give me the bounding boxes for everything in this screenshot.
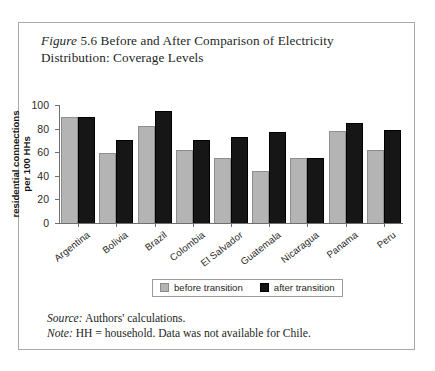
x-tick xyxy=(78,223,79,227)
bar-before xyxy=(367,150,384,223)
x-tick xyxy=(116,223,117,227)
figure-footnotes: Source: Authors' calculations. Note: HH … xyxy=(47,312,397,341)
y-tick-80: 80 xyxy=(55,129,59,130)
y-tick-100: 100 xyxy=(55,105,59,106)
figure-number-label: Figure xyxy=(41,33,77,48)
bar-after xyxy=(384,130,401,223)
x-tick xyxy=(155,223,156,227)
bar-before xyxy=(176,150,193,223)
x-tick xyxy=(384,223,385,227)
y-axis-line xyxy=(59,105,60,223)
bar-after xyxy=(269,132,286,223)
x-axis-label: Brazil xyxy=(142,229,168,253)
bar-group xyxy=(329,105,363,223)
y-tick-label-0: 0 xyxy=(43,217,49,229)
chart-plot-area: residential connections per 100 HHs 100 … xyxy=(59,105,403,223)
bar-group xyxy=(214,105,248,223)
bar-group xyxy=(99,105,133,223)
x-tick xyxy=(346,223,347,227)
x-tick xyxy=(269,223,270,227)
y-tick-20: 20 xyxy=(55,199,59,200)
x-tick xyxy=(231,223,232,227)
bar-after xyxy=(155,111,172,223)
legend-label-after: after transition xyxy=(274,282,335,293)
x-tick xyxy=(193,223,194,227)
x-axis-label: Argentina xyxy=(52,229,92,264)
bar-group xyxy=(252,105,286,223)
bar-after xyxy=(116,140,133,223)
bar-before xyxy=(214,158,231,223)
source-text: Authors' calculations. xyxy=(83,312,186,325)
legend-label-before: before transition xyxy=(174,282,243,293)
y-axis-title: residential connections per 100 HHs xyxy=(10,105,32,223)
chart-legend: before transition after transition xyxy=(152,279,343,297)
note-text: HH = household. Data was not available f… xyxy=(73,327,311,340)
x-axis-label: Nicaragua xyxy=(279,229,321,265)
bar-before xyxy=(61,117,78,223)
figure-title: Figure 5.6 Before and After Comparison o… xyxy=(41,33,386,66)
bar-after xyxy=(193,140,210,223)
y-tick-label-80: 80 xyxy=(37,123,49,135)
bar-group xyxy=(290,105,324,223)
legend-swatch-before-icon xyxy=(160,283,169,292)
x-axis-label: Panama xyxy=(324,229,359,260)
y-tick-label-20: 20 xyxy=(37,193,49,205)
legend-swatch-after-icon xyxy=(260,283,269,292)
figure-title-text: 5.6 Before and After Comparison of Elect… xyxy=(41,33,334,65)
source-lead: Source: xyxy=(47,312,83,325)
bar-before xyxy=(138,126,155,223)
y-tick-0: 0 xyxy=(55,223,59,224)
y-tick-label-60: 60 xyxy=(37,146,49,158)
bar-after xyxy=(346,123,363,223)
bar-group xyxy=(176,105,210,223)
x-axis-label: Peru xyxy=(375,229,398,250)
y-tick-label-100: 100 xyxy=(31,99,49,111)
bar-before xyxy=(252,171,269,223)
y-tick-60: 60 xyxy=(55,152,59,153)
note-lead: Note: xyxy=(47,327,73,340)
y-tick-40: 40 xyxy=(55,176,59,177)
x-tick xyxy=(307,223,308,227)
note-line: Note: HH = household. Data was not avail… xyxy=(47,327,397,342)
source-line: Source: Authors' calculations. xyxy=(47,312,397,327)
bar-group xyxy=(61,105,95,223)
bar-before xyxy=(329,131,346,223)
bar-after xyxy=(231,137,248,223)
bar-before xyxy=(290,158,307,223)
y-tick-label-40: 40 xyxy=(37,170,49,182)
figure-frame: Figure 5.6 Before and After Comparison o… xyxy=(18,22,415,350)
bar-group xyxy=(138,105,172,223)
x-axis-label: Guatemala xyxy=(239,229,283,267)
x-axis-label: Bolivia xyxy=(101,229,131,256)
legend-entry-before: before transition xyxy=(160,282,243,293)
bar-after xyxy=(78,117,95,223)
bar-after xyxy=(307,158,324,223)
bar-before xyxy=(99,153,116,223)
bar-group xyxy=(367,105,401,223)
legend-entry-after: after transition xyxy=(260,282,335,293)
